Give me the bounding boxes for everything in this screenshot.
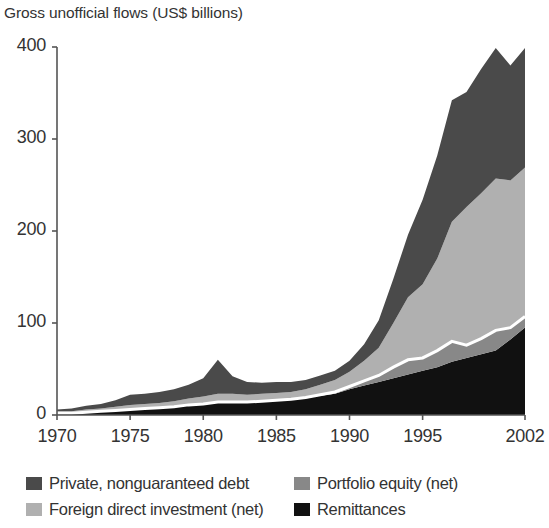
x-axis-tick-label: 1970: [27, 426, 87, 447]
legend-item-remittances: Remittances: [294, 500, 534, 519]
y-axis-tick-label: 200: [0, 219, 46, 240]
x-axis-tick-label: 1980: [173, 426, 233, 447]
legend-item-private-nonguaranteed-debt: Private, nonguaranteed debt: [26, 474, 294, 493]
legend-swatch-icon: [26, 503, 42, 516]
chart-legend: Private, nonguaranteed debt Portfolio eq…: [26, 470, 526, 522]
legend-swatch-icon: [294, 477, 310, 490]
y-axis-tick-label: 0: [0, 403, 46, 424]
y-axis-tick-label: 400: [0, 35, 46, 56]
legend-swatch-icon: [26, 477, 42, 490]
legend-label: Remittances: [317, 500, 405, 519]
x-axis-tick-label: 1995: [393, 426, 453, 447]
legend-label: Foreign direct investment (net): [49, 500, 263, 519]
x-axis-tick-label: 1985: [246, 426, 306, 447]
legend-item-portfolio-equity: Portfolio equity (net): [294, 474, 534, 493]
y-axis-tick-label: 100: [0, 311, 46, 332]
y-axis-tick-label: 300: [0, 127, 46, 148]
x-axis-tick-label: 1975: [100, 426, 160, 447]
x-axis-tick-label: 2002: [495, 426, 549, 447]
x-axis-tick-label: 1990: [320, 426, 380, 447]
legend-label: Portfolio equity (net): [317, 474, 458, 493]
legend-label: Private, nonguaranteed debt: [49, 474, 249, 493]
legend-swatch-icon: [294, 503, 310, 516]
legend-item-foreign-direct-investment: Foreign direct investment (net): [26, 500, 294, 519]
